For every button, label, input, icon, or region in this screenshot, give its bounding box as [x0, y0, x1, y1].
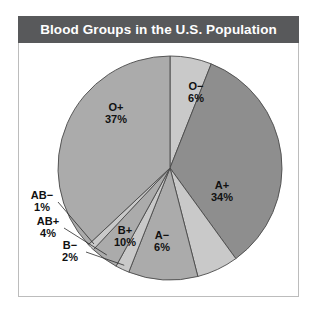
pie-slice-value: 37%	[105, 113, 127, 125]
pie-slice-value: 34%	[211, 191, 233, 203]
pie-chart: O−6%A+34%A−6%B+10%B−2%AB+4%AB−1%O+37%	[0, 0, 319, 314]
pie-slice-label: A+	[215, 179, 229, 191]
pie-slice-group	[58, 56, 282, 280]
pie-slice-label: AB−	[31, 189, 53, 201]
figure-container: Blood Groups in the U.S. Population O−6%…	[0, 0, 319, 314]
pie-slice-value: 10%	[114, 236, 136, 248]
pie-slice-label: B+	[118, 224, 132, 236]
pie-slice-value: 4%	[40, 227, 56, 239]
pie-slice-label: O+	[109, 101, 124, 113]
pie-slice-label: O−	[189, 80, 204, 92]
pie-slice-value: 1%	[34, 201, 50, 213]
pie-slice-value: 6%	[188, 92, 204, 104]
pie-slice-value: 2%	[62, 251, 78, 263]
pie-slice-label: AB+	[37, 215, 59, 227]
pie-slice-label: A−	[155, 229, 169, 241]
pie-slice-label: B−	[63, 239, 77, 251]
pie-slice-value: 6%	[154, 241, 170, 253]
